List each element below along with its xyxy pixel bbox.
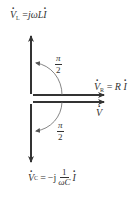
- vc-current: I: [73, 173, 76, 183]
- lower-angle-den: 2: [58, 132, 63, 142]
- v-label: V: [96, 108, 102, 118]
- upper-angle-den: 2: [56, 65, 61, 75]
- v-symbol: V: [96, 108, 102, 118]
- vc-frac-den: ωC: [58, 178, 70, 188]
- lower-angle-num: π: [57, 121, 64, 132]
- vl-sub: L: [16, 15, 20, 21]
- upper-angle-label: π 2: [55, 54, 62, 75]
- vr-rhs: R: [115, 81, 121, 92]
- vc-eq: =: [40, 173, 46, 183]
- vr-current: I: [123, 82, 126, 92]
- vr-label: VR = R I: [94, 82, 127, 93]
- vc-label: VC = −j 1 ωC I: [28, 168, 76, 188]
- vc-rhs: −j: [48, 173, 56, 183]
- vr-sub: R: [100, 87, 104, 93]
- upper-angle-num: π: [55, 54, 62, 65]
- vl-label: VL =jωLI: [10, 10, 47, 21]
- vl-rhs: jωL: [28, 9, 43, 20]
- vr-symbol: V: [94, 82, 100, 92]
- vr-eq: =: [107, 81, 113, 92]
- vc-sub: C: [34, 175, 38, 181]
- vc-symbol: V: [28, 173, 34, 183]
- lower-angle-label: π 2: [57, 121, 64, 142]
- vc-fraction: 1 ωC: [58, 168, 70, 188]
- vl-current: I: [43, 10, 46, 20]
- vl-symbol: V: [10, 10, 16, 20]
